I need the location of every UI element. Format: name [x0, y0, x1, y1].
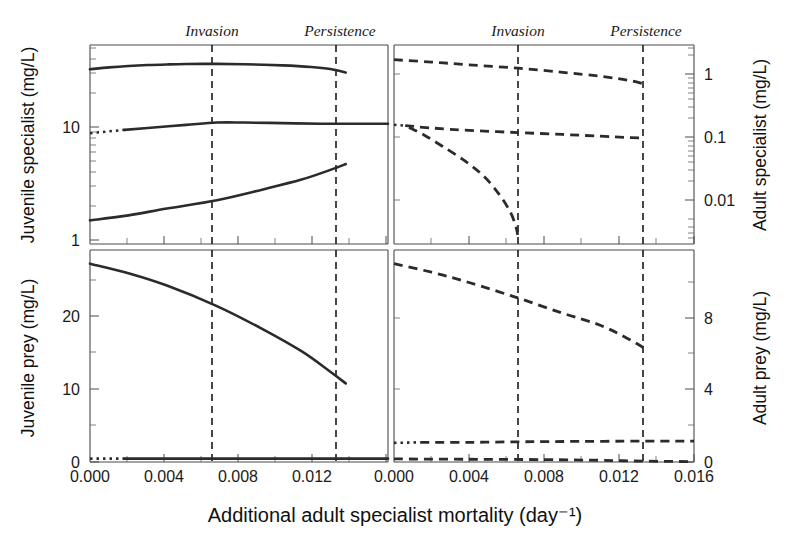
panel-top-left-yticks: [90, 48, 99, 240]
ytick-label-bottom-left-10: 10: [62, 381, 80, 398]
panel-top-right-xticks: [431, 236, 694, 244]
xtick-label-right-0: 0.000: [374, 468, 414, 485]
panel-bottom-right-yticks: [685, 282, 694, 462]
ytick-label-top-left-1: 1: [71, 232, 80, 249]
ytick-label-bottom-right-4: 4: [704, 381, 713, 398]
xtick-label-left-3: 0.012: [292, 468, 332, 485]
curves-juvenile-specialist: [90, 64, 388, 221]
xtick-label-left-2: 0.008: [218, 468, 258, 485]
curve-lower-unstable-branch: [90, 164, 346, 220]
ytick-label-top-right-1: 1: [704, 66, 713, 83]
xtick-label-left-0: 0.000: [70, 468, 110, 485]
ylabel-adult-specialist: Adult specialist (mg/L): [750, 59, 770, 231]
curve-lower-collapsing-branch: [409, 127, 518, 234]
panel-bottom-left-frame: [90, 250, 388, 462]
ytick-label-top-right-0.01: 0.01: [704, 192, 735, 209]
xtick-label-left-1: 0.004: [144, 468, 184, 485]
curve-mid-branch-dashed: [405, 126, 643, 138]
xtick-label-right-1: 0.004: [449, 468, 489, 485]
annotation-persistence-right: Persistence: [609, 22, 682, 39]
panel-bottom-right-left-ticks: [394, 318, 400, 389]
ytick-label-bottom-right-8: 8: [704, 310, 713, 327]
figure-container: 10 1: [0, 0, 790, 552]
ytick-label-top-left-10: 10: [62, 119, 80, 136]
xlabel-main: Additional adult specialist mortality (d…: [208, 504, 583, 526]
panel-top-right-yticks: [685, 48, 694, 238]
xtick-label-right-2: 0.008: [524, 468, 564, 485]
xtick-label-right-3: 0.012: [599, 468, 639, 485]
ylabel-juvenile-specialist: Juvenile specialist (mg/L): [18, 47, 38, 243]
curves-juvenile-prey: [90, 264, 388, 459]
curve-low-branch-dotted: [394, 442, 420, 443]
curve-declining-branch: [90, 264, 346, 384]
curve-mid-branch-solid: [125, 122, 388, 129]
panel-top-right-left-ticks: [394, 74, 400, 200]
panel-top-left-xticks: [127, 236, 386, 244]
curve-low-branch-dashed: [420, 441, 694, 442]
annotation-invasion-left: Invasion: [184, 22, 239, 39]
ylabel-adult-prey: Adult prey (mg/L): [750, 291, 770, 425]
panel-bottom-right-frame: [394, 250, 694, 462]
curves-adult-prey: [394, 264, 694, 462]
panel-bottom-left-yticks: [90, 280, 99, 462]
curve-mid-branch-dotted-start: [394, 125, 405, 126]
curve-mid-branch-dotted: [90, 130, 125, 133]
xtick-label-right-4: 0.016: [674, 468, 714, 485]
annotation-invasion-right: Invasion: [490, 22, 545, 39]
curve-upper-stable-branch: [90, 64, 346, 73]
ytick-label-bottom-left-20: 20: [62, 308, 80, 325]
ylabel-juvenile-prey: Juvenile prey (mg/L): [18, 279, 38, 438]
ytick-label-top-right-0.1: 0.1: [704, 129, 726, 146]
annotation-persistence-left: Persistence: [303, 22, 376, 39]
bifurcation-figure: 10 1: [0, 0, 790, 552]
